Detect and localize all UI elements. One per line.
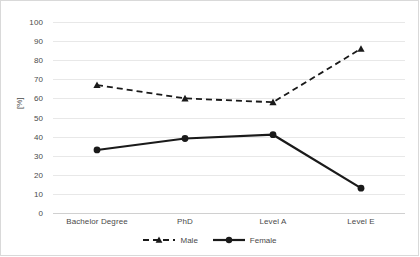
y-tick-label: 70: [34, 75, 43, 84]
x-tick-label: Level A: [260, 217, 287, 226]
legend-item-male[interactable]: Male: [142, 235, 197, 245]
legend-label: Male: [180, 236, 197, 245]
data-point-female-0: [94, 147, 101, 154]
y-tick-label: 90: [34, 37, 43, 46]
series-layer: [53, 22, 405, 213]
y-tick-label: 80: [34, 56, 43, 65]
gridline: [53, 213, 405, 214]
legend-item-female[interactable]: Female: [212, 235, 277, 245]
x-tick-label: PhD: [177, 217, 193, 226]
y-tick-label: 40: [34, 132, 43, 141]
y-tick-label: 10: [34, 189, 43, 198]
x-tick-label: Bachelor Degree: [66, 217, 128, 226]
data-point-female-1: [182, 135, 189, 142]
y-tick-label: 60: [34, 94, 43, 103]
data-point-female-3: [358, 185, 365, 192]
data-point-male-3: [357, 45, 364, 52]
series-line-male: [97, 49, 361, 102]
y-tick-label: 20: [34, 170, 43, 179]
series-line-female: [97, 135, 361, 188]
y-tick-label: 100: [29, 18, 43, 27]
x-axis-tick-labels: Bachelor DegreePhDLevel ALevel E: [53, 217, 405, 231]
x-tick-label: Level E: [347, 217, 374, 226]
chart-legend: MaleFemale: [1, 235, 418, 245]
y-tick-label: 50: [34, 113, 43, 122]
y-tick-label: 30: [34, 151, 43, 160]
circle-icon: [212, 235, 246, 245]
y-axis-tick-labels: 0102030405060708090100: [1, 22, 49, 213]
y-tick-label: 0: [38, 209, 43, 218]
triangle-icon: [142, 235, 176, 245]
line-chart: [%] 0102030405060708090100 Bachelor Degr…: [0, 0, 419, 256]
data-point-female-2: [270, 131, 277, 138]
legend-label: Female: [250, 236, 277, 245]
